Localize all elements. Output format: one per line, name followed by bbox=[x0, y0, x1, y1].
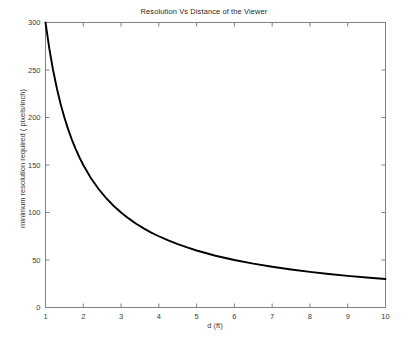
x-tick-label: 4 bbox=[157, 312, 161, 321]
chart-figure: Resolution Vs Distance of the Viewer 123… bbox=[0, 0, 408, 343]
y-axis-label: minimum resolution required ( pixels/inc… bbox=[18, 59, 27, 259]
x-tick-label: 8 bbox=[308, 312, 312, 321]
x-axis-label: d (ft) bbox=[45, 321, 385, 330]
y-tick-label: 0 bbox=[36, 303, 40, 312]
y-tick-label: 300 bbox=[28, 18, 41, 27]
x-tick-label: 2 bbox=[81, 312, 85, 321]
plot-canvas: 12345678910 050100150200250300 bbox=[0, 0, 408, 343]
y-tick-label: 250 bbox=[28, 66, 41, 75]
x-tick-label: 10 bbox=[381, 312, 389, 321]
series-line bbox=[46, 23, 386, 280]
y-tick-label: 50 bbox=[32, 256, 40, 265]
x-tick-label: 9 bbox=[346, 312, 350, 321]
axes-frame bbox=[46, 23, 386, 308]
x-tick-label: 3 bbox=[119, 312, 123, 321]
data-series-line bbox=[46, 23, 386, 280]
x-tick-label: 7 bbox=[270, 312, 274, 321]
y-tick-label: 200 bbox=[28, 113, 41, 122]
x-tick-label: 6 bbox=[232, 312, 236, 321]
x-tick-label: 5 bbox=[195, 312, 199, 321]
y-tick-label: 100 bbox=[28, 208, 41, 217]
y-axis-ticks: 050100150200250300 bbox=[28, 18, 386, 312]
y-tick-label: 150 bbox=[28, 161, 41, 170]
x-tick-label: 1 bbox=[43, 312, 47, 321]
